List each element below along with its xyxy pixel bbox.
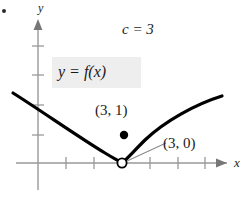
function-equation-label: y = f(x) xyxy=(58,64,106,80)
x-axis-arrowhead xyxy=(216,159,227,168)
filled-dot-marker-3-1 xyxy=(120,131,128,139)
x-axis-label: x xyxy=(234,156,240,169)
y-axis-label: y xyxy=(38,2,43,14)
open-circle-marker-3-0 xyxy=(117,158,126,167)
point-label-3-0: (3, 0) xyxy=(163,136,196,151)
c-value-annotation: c = 3 xyxy=(122,22,154,37)
figure-container: y x c = 3 y = f(x) (3, 1) (3, 0) xyxy=(0,0,251,200)
curve-right-branch xyxy=(122,96,222,163)
point-label-3-1: (3, 1) xyxy=(95,103,128,118)
y-axis-arrowhead xyxy=(34,19,43,30)
